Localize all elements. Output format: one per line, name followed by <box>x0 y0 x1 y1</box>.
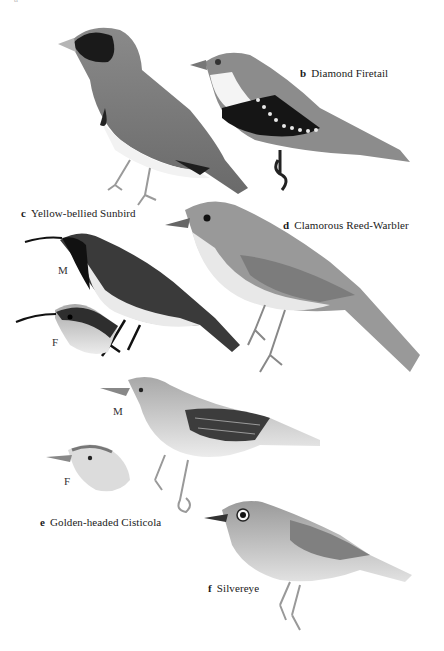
species-name: Silvereye <box>217 582 259 594</box>
cropped-top-label: a <box>14 0 18 4</box>
field-guide-plate: a bDiamond Firetail cYellow-bellied Sunb… <box>0 0 444 651</box>
bird-f-silvereye <box>204 501 412 630</box>
species-letter: f <box>208 582 212 594</box>
label-silvereye: fSilvereye <box>208 582 259 594</box>
bird-e-cisticola-female-head <box>46 444 130 491</box>
species-letter: e <box>40 516 45 528</box>
species-name: Yellow-bellied Sunbird <box>31 207 136 219</box>
bird-a-finch <box>58 28 248 205</box>
label-diamond-firetail: bDiamond Firetail <box>300 67 388 79</box>
species-name: Diamond Firetail <box>311 67 388 79</box>
label-clamorous-reed-warbler: dClamorous Reed-Warbler <box>283 219 409 231</box>
sex-label-female: F <box>64 475 70 487</box>
label-yellow-bellied-sunbird: cYellow-bellied Sunbird <box>21 207 136 219</box>
species-letter: c <box>21 207 26 219</box>
species-name: Clamorous Reed-Warbler <box>294 219 409 231</box>
bird-e-cisticola-male <box>100 377 320 512</box>
species-letter: b <box>300 67 306 79</box>
bird-c-sunbird-female-head <box>16 304 118 354</box>
sex-label-female: F <box>52 336 58 348</box>
species-letter: d <box>283 219 289 231</box>
sex-label-male: M <box>58 264 68 276</box>
sex-label-male: M <box>113 405 123 417</box>
label-golden-headed-cisticola: eGolden-headed Cisticola <box>40 516 161 528</box>
bird-illustrations <box>0 0 444 651</box>
species-name: Golden-headed Cisticola <box>50 516 161 528</box>
